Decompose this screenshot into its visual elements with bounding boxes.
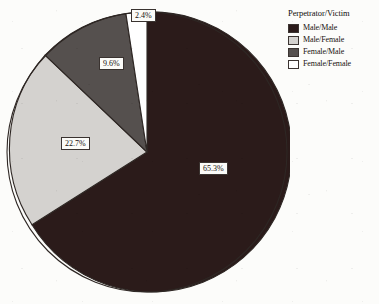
legend-title: Perpetrator/Victim: [288, 8, 379, 19]
slice-label-female-male: 9.6%: [99, 57, 124, 70]
legend-swatch-female-male: [288, 48, 299, 57]
slice-label-male-female: 22.7%: [61, 137, 90, 150]
slice-label-male-male: 65.3%: [199, 162, 228, 175]
legend: Perpetrator/Victim Male/Male Male/Female…: [288, 8, 379, 70]
pie-svg: [0, 0, 290, 304]
legend-swatch-female-female: [288, 60, 299, 69]
pie-chart-figure: 65.3% 22.7% 9.6% 2.4% Perpetrator/Victim…: [0, 0, 379, 304]
legend-item-male-male[interactable]: Male/Male: [288, 22, 379, 34]
legend-label-female-male: Female/Male: [303, 47, 344, 57]
legend-label-female-female: Female/Female: [303, 59, 351, 69]
legend-item-female-male[interactable]: Female/Male: [288, 46, 379, 58]
slice-label-female-female: 2.4%: [131, 9, 156, 22]
legend-item-female-female[interactable]: Female/Female: [288, 58, 379, 70]
legend-label-male-female: Male/Female: [303, 35, 344, 45]
legend-swatch-male-male: [288, 24, 299, 33]
legend-label-male-male: Male/Male: [303, 23, 337, 33]
legend-item-male-female[interactable]: Male/Female: [288, 34, 379, 46]
legend-swatch-male-female: [288, 36, 299, 45]
pie-plot-area: 65.3% 22.7% 9.6% 2.4%: [0, 0, 290, 304]
